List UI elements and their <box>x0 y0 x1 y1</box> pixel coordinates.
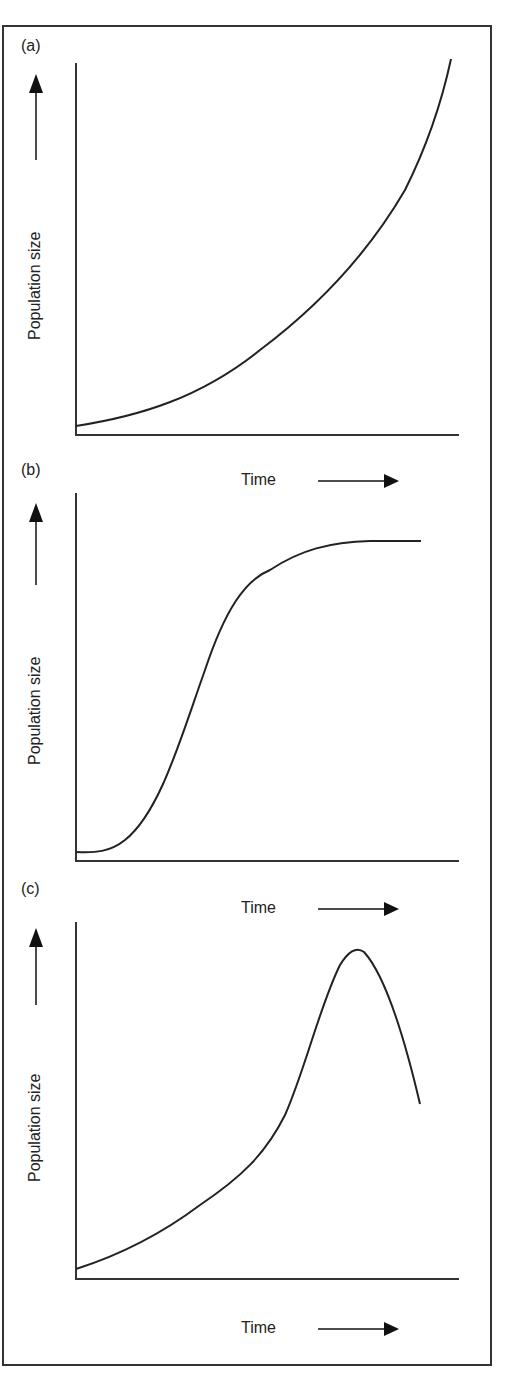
panel-label-a: (a) <box>21 37 41 55</box>
x-axis-label-c: Time <box>241 1319 276 1337</box>
boom-bust-curve <box>76 950 420 1269</box>
plots-canvas <box>0 0 519 1375</box>
x-axis-label-b: Time <box>241 899 276 917</box>
y-axis-label-c: Population size <box>26 1073 44 1182</box>
panel-c <box>29 922 459 1336</box>
panel-b <box>29 493 459 916</box>
panel-label-b: (b) <box>21 461 41 479</box>
y-axis-label-a: Population size <box>26 231 44 340</box>
panel-a <box>29 59 459 488</box>
logistic-curve <box>76 541 421 852</box>
panel-label-c: (c) <box>21 880 40 898</box>
y-axis-label-b: Population size <box>26 656 44 765</box>
x-axis-label-a: Time <box>241 471 276 489</box>
growth-curve <box>76 59 451 426</box>
